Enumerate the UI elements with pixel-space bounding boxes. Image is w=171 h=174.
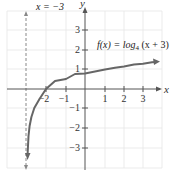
function-label-arg: (x + 3): [139, 39, 169, 51]
log-function-graph: −2 −1 1 2 3 3 2 1 −1 −2 −3 x y x = −3 f(…: [0, 0, 171, 174]
x-axis-arrow-icon: [156, 87, 162, 92]
y-tick-label: 1: [75, 63, 80, 74]
y-tick-label: −1: [69, 102, 80, 113]
x-tick-label: 2: [122, 93, 127, 104]
x-tick-label: 3: [141, 93, 146, 104]
asymptote-label: x = −3: [35, 1, 64, 12]
function-label-prefix: f(x) = log: [97, 39, 135, 51]
asymptote-arrow-down-icon: [24, 165, 28, 170]
y-tick-label: 2: [75, 44, 80, 55]
curve-arrow-right-icon: [153, 59, 160, 66]
x-axis-label: x: [163, 83, 169, 95]
y-tick-label: −2: [69, 122, 80, 133]
x-tick-label: 1: [103, 93, 108, 104]
y-tick-label: 3: [75, 24, 80, 35]
asymptote-arrow-up-icon: [24, 11, 28, 16]
x-tick-label: −1: [59, 93, 70, 104]
y-axis-label: y: [79, 0, 85, 9]
y-tick-label: −3: [69, 142, 80, 153]
